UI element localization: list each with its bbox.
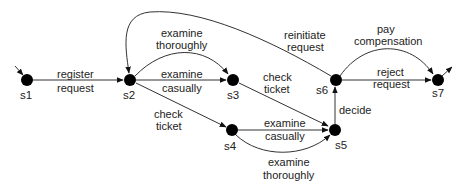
edge-label-check: check <box>154 108 183 120</box>
edge-label-examine: examine <box>161 68 203 80</box>
state-node-s6 <box>330 74 342 86</box>
edge-label-examine: examine <box>264 117 306 129</box>
state-label-s1: s1 <box>20 89 32 101</box>
final-state-arrow <box>442 67 452 76</box>
edge-label-ticket: ticket <box>264 83 290 95</box>
state-label-s4: s4 <box>224 140 237 152</box>
edge-label-decide: decide <box>339 104 371 116</box>
edge-label-check: check <box>263 71 292 83</box>
edge-label-request: request <box>287 41 324 53</box>
state-node-s7 <box>432 74 444 86</box>
edge-label-reinitiate: reinitiate <box>284 29 326 41</box>
state-node-s4 <box>226 124 238 136</box>
edge-label-ticket: ticket <box>156 120 182 132</box>
state-label-s5: s5 <box>335 139 347 151</box>
edge-label-compensation: compensation <box>354 35 423 47</box>
state-label-s3: s3 <box>227 89 239 101</box>
edge-label-thoroughly: thoroughly <box>263 169 315 181</box>
edge-label-register: register <box>57 68 94 80</box>
state-node-s5 <box>329 124 341 136</box>
edge-label-casually: casually <box>162 82 202 94</box>
state-node-s3 <box>227 74 239 86</box>
state-label-s6: s6 <box>316 84 328 96</box>
edge-label-thoroughly: thoroughly <box>156 39 208 51</box>
edge-label-pay: pay <box>377 23 395 35</box>
edge-label-reject: reject <box>377 66 404 78</box>
edge-label-request: request <box>57 82 94 94</box>
edge-label-request: request <box>373 78 410 90</box>
state-label-s7: s7 <box>432 87 444 99</box>
edge-label-examine: examine <box>268 156 310 168</box>
state-diagram: s1 s2 s3 s4 s5 s6 s7 register request ex… <box>0 0 468 187</box>
edge-label-casually: casually <box>265 130 305 142</box>
initial-state-arrow <box>15 66 23 75</box>
edge-label-examine: examine <box>161 27 203 39</box>
state-node-s2 <box>124 74 136 86</box>
state-node-s1 <box>21 74 33 86</box>
state-label-s2: s2 <box>123 89 135 101</box>
